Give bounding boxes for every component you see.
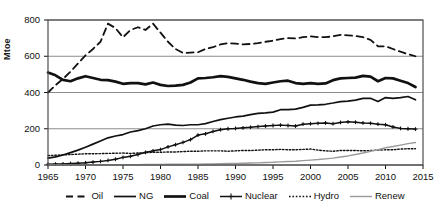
y-axis-title: Mtoe (2, 46, 12, 60)
legend-swatch-hydro (289, 192, 311, 201)
legend-item-hydro[interactable]: Hydro (289, 191, 339, 201)
series-coal (48, 73, 416, 88)
x-tick-label-1965: 1965 (28, 172, 68, 182)
y-tick-label-0: 0 (14, 160, 40, 170)
legend-label-ng: NG (139, 191, 153, 201)
series-hydro (48, 149, 416, 156)
legend-label-coal: Coal (189, 191, 209, 201)
legend-item-coal[interactable]: Coal (164, 191, 209, 201)
series-line-hydro (48, 149, 416, 156)
legend-swatch-renew (350, 192, 372, 201)
x-tick-label-2015: 2015 (403, 172, 440, 182)
series-line-nuclear (48, 122, 416, 164)
series-line-coal (48, 73, 416, 88)
y-tick-label-800: 800 (14, 15, 40, 25)
y-tick-label-200: 200 (14, 124, 40, 134)
series-oil (48, 24, 416, 93)
series-line-oil (48, 24, 416, 93)
legend-swatch-coal (164, 192, 186, 201)
x-tick-label-1990: 1990 (216, 172, 256, 182)
series-layer (46, 24, 417, 167)
y-tick-label-600: 600 (14, 51, 40, 61)
x-tick-label-1975: 1975 (103, 172, 143, 182)
legend-label-oil: Oil (91, 191, 103, 201)
x-tick-label-1980: 1980 (141, 172, 181, 182)
legend-item-ng[interactable]: NG (114, 191, 153, 201)
legend-item-nuclear[interactable]: Nuclear (220, 191, 278, 201)
legend-item-renew[interactable]: Renew (350, 191, 405, 201)
series-line-ng (48, 96, 416, 158)
legend-item-oil[interactable]: Oil (66, 191, 103, 201)
x-tick-label-1970: 1970 (66, 172, 106, 182)
legend-swatch-ng (114, 192, 136, 201)
chart-legend: OilNGCoalNuclearHydroRenew (48, 188, 423, 204)
gridlines (48, 20, 423, 165)
legend-swatch-nuclear (220, 192, 242, 201)
x-tick-label-2000: 2000 (291, 172, 331, 182)
x-tick-label-1995: 1995 (253, 172, 293, 182)
y-tick-label-400: 400 (14, 88, 40, 98)
series-ng (48, 96, 416, 158)
series-nuclear (46, 120, 417, 166)
legend-label-hydro: Hydro (314, 191, 339, 201)
x-tick-label-1985: 1985 (178, 172, 218, 182)
legend-label-nuclear: Nuclear (245, 191, 278, 201)
legend-swatch-oil (66, 192, 88, 201)
legend-label-renew: Renew (375, 191, 405, 201)
x-tick-label-2010: 2010 (366, 172, 406, 182)
energy-consumption-line-chart: Mtoe 0200400600800 196519701975198019851… (0, 0, 440, 208)
x-tick-label-2005: 2005 (328, 172, 368, 182)
